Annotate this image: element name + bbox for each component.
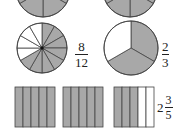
- circle-thirds: [104, 21, 158, 75]
- numerator: 2: [162, 40, 169, 53]
- fraction-part: 3 5: [165, 94, 173, 121]
- denominator: 3: [162, 56, 169, 69]
- bar-model: [63, 87, 103, 127]
- shaded-strip: [130, 87, 138, 127]
- unshaded-strip: [138, 87, 146, 127]
- shaded-strip: [39, 87, 47, 127]
- fraction-label-8-12: 8 12: [75, 40, 88, 69]
- shaded-strip: [23, 87, 31, 127]
- fraction-models-diagram: [0, 0, 182, 137]
- shaded-strip: [122, 87, 130, 127]
- shaded-strip: [87, 87, 95, 127]
- denominator: 5: [166, 109, 172, 121]
- circle-twelfths: [17, 23, 67, 73]
- shaded-strip: [71, 87, 79, 127]
- fraction-label-2-3: 2 3: [162, 40, 169, 69]
- shaded-strip: [95, 87, 103, 127]
- mixed-number-label: 2 3 5: [157, 94, 173, 121]
- shaded-strip: [31, 87, 39, 127]
- denominator: 12: [75, 56, 88, 69]
- circle-top-right: [103, 0, 157, 17]
- unshaded-strip: [146, 87, 154, 127]
- shaded-strip: [63, 87, 71, 127]
- shaded-strip: [15, 87, 23, 127]
- numerator: 8: [75, 40, 88, 53]
- shaded-strip: [47, 87, 55, 127]
- bar-model: [114, 87, 154, 127]
- shaded-strip: [114, 87, 122, 127]
- shaded-strip: [79, 87, 87, 127]
- numerator: 3: [166, 94, 172, 106]
- bar-model: [15, 87, 55, 127]
- whole-number: 2: [157, 100, 164, 116]
- circle-top-left: [16, 0, 70, 17]
- center-dot: [41, 47, 44, 50]
